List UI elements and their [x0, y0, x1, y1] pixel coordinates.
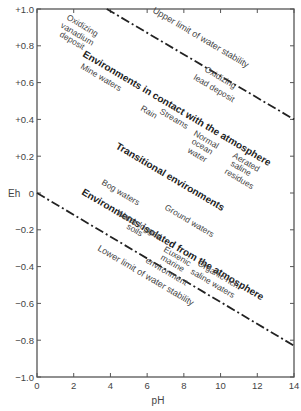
x-tick-label: 12 — [252, 380, 263, 391]
y-tick-label: 0 — [29, 188, 34, 199]
x-tick-label: 0 — [34, 380, 39, 391]
x-tick-label: 6 — [144, 380, 149, 391]
y-tick-label: −1.0 — [15, 372, 34, 383]
y-tick-label: +0.6 — [15, 77, 34, 88]
y-axis-ticks: +1.0+0.8+0.6+0.4+0.20−0.2−0.4−0.6−0.8−1.… — [15, 4, 294, 383]
y-tick-label: +0.8 — [15, 40, 34, 51]
upper-limit-label: Upper limit of water stability — [151, 5, 251, 70]
y-tick-label: −0.2 — [15, 224, 34, 235]
x-tick-label: 4 — [108, 380, 113, 391]
plot-frame — [37, 9, 294, 377]
x-tick-label: 14 — [289, 380, 300, 391]
y-tick-label: −0.8 — [15, 335, 34, 346]
x-axis-ticks: 02468101214 — [34, 9, 299, 391]
y-tick-label: +0.4 — [15, 114, 34, 125]
y-tick-label: +0.2 — [15, 151, 34, 162]
x-tick-label: 10 — [215, 380, 226, 391]
y-tick-label: −0.6 — [15, 298, 34, 309]
upper-limit-line — [107, 9, 294, 119]
y-tick-label: −0.4 — [15, 261, 34, 272]
eh-ph-diagram: +1.0+0.8+0.6+0.4+0.20−0.2−0.4−0.6−0.8−1.… — [0, 0, 301, 411]
y-tick-label: +1.0 — [15, 4, 34, 15]
x-tick-label: 8 — [181, 380, 186, 391]
ground-waters-label: Ground waters — [163, 202, 216, 239]
x-axis-title: pH — [152, 395, 165, 406]
rain-label: Rain — [139, 103, 159, 121]
x-tick-label: 2 — [71, 380, 76, 391]
y-axis-title: Eh — [8, 188, 20, 199]
